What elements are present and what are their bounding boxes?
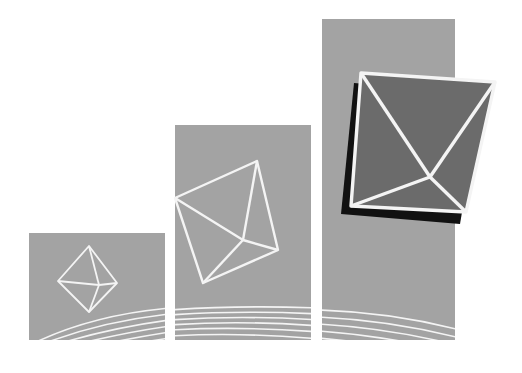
panel-medium (170, 125, 320, 340)
panel-small (29, 233, 170, 365)
panel-large (318, 19, 495, 362)
shape-face (351, 73, 495, 212)
bar-graph-illustration (0, 0, 522, 373)
